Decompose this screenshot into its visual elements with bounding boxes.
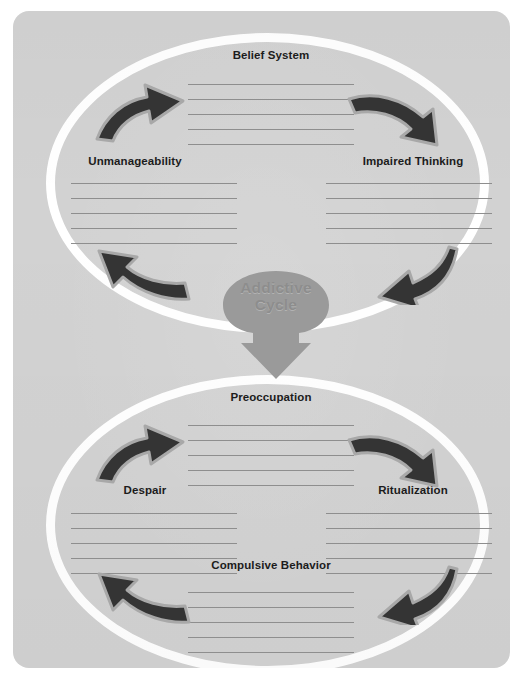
writing-line[interactable] [71, 183, 237, 184]
addictive-cycle-label: Addictive Cycle [211, 279, 341, 313]
lines-compulsive-behavior [188, 579, 354, 653]
writing-line[interactable] [71, 213, 237, 214]
worksheet-card: Belief System Unmanageability Impaired T… [13, 11, 510, 668]
writing-line[interactable] [188, 144, 354, 145]
cycle-arrow-down-left-icon [357, 563, 463, 625]
addictive-cycle-label-line1: Addictive [211, 279, 341, 296]
writing-line[interactable] [326, 183, 492, 184]
writing-line[interactable] [188, 114, 354, 115]
writing-line[interactable] [188, 652, 354, 653]
lines-impaired-thinking [326, 171, 492, 244]
writing-line[interactable] [188, 84, 354, 85]
cycle-arrow-down-left-icon [357, 243, 463, 305]
writing-line[interactable] [326, 528, 492, 529]
writing-line[interactable] [188, 425, 354, 426]
lines-belief-system [188, 71, 354, 145]
writing-line[interactable] [326, 543, 492, 544]
cycle-arrow-up-right-icon [91, 83, 191, 145]
writing-line[interactable] [71, 528, 237, 529]
addictive-cycle-worksheet: Belief System Unmanageability Impaired T… [0, 0, 527, 690]
writing-line[interactable] [188, 129, 354, 130]
writing-line[interactable] [188, 470, 354, 471]
writing-line[interactable] [71, 513, 237, 514]
writing-line[interactable] [326, 213, 492, 214]
writing-line[interactable] [188, 99, 354, 100]
cycle-arrow-down-right-icon [341, 83, 445, 149]
writing-line[interactable] [71, 228, 237, 229]
writing-line[interactable] [188, 622, 354, 623]
writing-line[interactable] [188, 455, 354, 456]
cycle-arrow-up-left-icon [91, 564, 197, 628]
addictive-cycle-label-line2: Cycle [211, 296, 341, 313]
writing-line[interactable] [326, 198, 492, 199]
heading-preoccupation: Preoccupation [161, 391, 381, 403]
cycle-arrow-up-left-icon [91, 241, 197, 305]
heading-unmanageability: Unmanageability [45, 155, 225, 167]
writing-line[interactable] [188, 592, 354, 593]
writing-line[interactable] [326, 228, 492, 229]
cycle-arrow-up-right-icon [91, 424, 191, 486]
writing-line[interactable] [326, 513, 492, 514]
writing-line[interactable] [188, 607, 354, 608]
writing-line[interactable] [71, 198, 237, 199]
writing-line[interactable] [188, 440, 354, 441]
lines-preoccupation [188, 412, 354, 486]
writing-line[interactable] [71, 543, 237, 544]
heading-impaired-thinking: Impaired Thinking [323, 155, 503, 167]
lines-unmanageability [71, 171, 237, 244]
cycle-arrow-down-right-icon [341, 424, 445, 490]
heading-belief-system: Belief System [161, 49, 381, 61]
writing-line[interactable] [188, 637, 354, 638]
